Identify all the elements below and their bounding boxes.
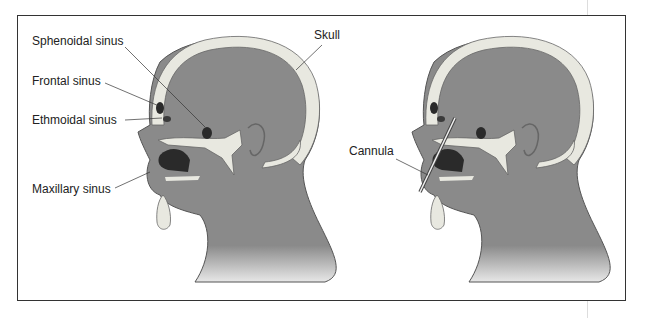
label-maxillary-sinus: Maxillary sinus (32, 182, 111, 196)
ethmoidal-sinus-shape (163, 116, 171, 122)
right-head (412, 36, 610, 282)
label-sphenoidal-sinus: Sphenoidal sinus (32, 34, 123, 48)
label-ethmoidal-sinus: Ethmoidal sinus (32, 113, 117, 127)
label-frontal-sinus: Frontal sinus (32, 74, 101, 88)
label-cannula: Cannula (349, 144, 394, 158)
frontal-sinus-shape (156, 102, 164, 114)
sphenoidal-sinus-shape (202, 127, 212, 139)
left-head (138, 36, 336, 282)
label-skull: Skull (314, 28, 340, 42)
